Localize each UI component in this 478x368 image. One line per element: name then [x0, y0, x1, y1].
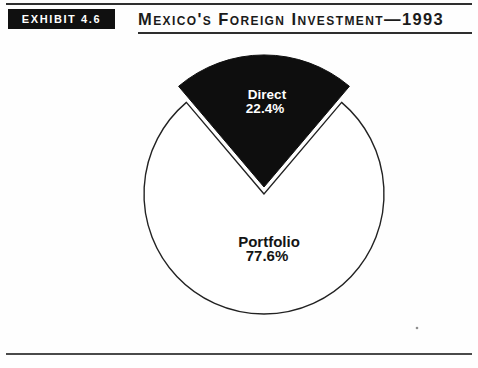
pie-chart: Direct 22.4% Portfolio 77.6% [0, 0, 478, 368]
label-portfolio-percent: 77.6% [246, 247, 289, 264]
print-speck [416, 327, 419, 330]
exhibit-page: EXHIBIT 4.6 Mexico's Foreign Investment—… [0, 0, 478, 368]
label-direct-name: Direct [248, 87, 287, 102]
label-direct-percent: 22.4% [246, 101, 284, 116]
bottom-rule [6, 353, 472, 355]
